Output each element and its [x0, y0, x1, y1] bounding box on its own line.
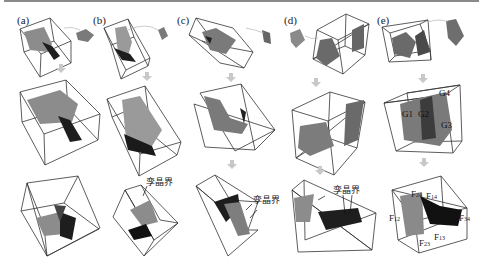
grain-label-g1: G1: [402, 110, 413, 119]
face-label-f23: F23: [419, 239, 430, 248]
twin-boundary-label-d: 孪晶界: [333, 186, 360, 195]
face-label-f34: F34: [459, 214, 470, 223]
grain-label-g3: G3: [441, 121, 452, 130]
twin-boundary-label-c: 孪晶界: [253, 196, 280, 205]
panel-label-e: (e): [377, 15, 389, 26]
face-label-f12: F12: [389, 214, 400, 223]
figure: (a) (b) (c) (d) (e) 孪晶界 孪晶界 孪晶界 G4 G1 G2…: [0, 0, 483, 271]
twin-boundary-label-b: 孪晶界: [146, 178, 173, 187]
grain-label-g4: G4: [439, 89, 450, 98]
face-label-f24: F24: [411, 190, 422, 199]
grain-shapes-row2: [27, 90, 452, 156]
figure-graphics: [0, 0, 483, 271]
grain-label-g2: G2: [418, 110, 429, 119]
grain-shapes-row1: [24, 19, 464, 66]
panel-label-a: (a): [17, 15, 29, 26]
panel-c-row2-cube: [194, 84, 275, 151]
face-label-f13: F13: [434, 233, 445, 242]
panel-label-d: (d): [284, 15, 297, 26]
panel-label-c: (c): [177, 15, 189, 26]
panel-label-b: (b): [93, 15, 106, 26]
face-label-f14: F14: [426, 192, 437, 201]
